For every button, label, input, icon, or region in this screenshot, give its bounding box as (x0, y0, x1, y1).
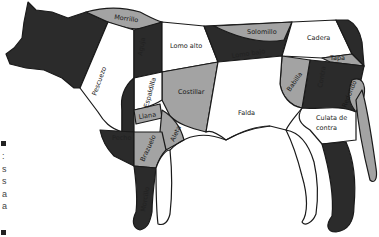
cow-illustration: Morrillo Pescuezo Aguja Lomo alto Solomi… (0, 0, 379, 237)
edge-char-3: s (2, 175, 7, 187)
label-solomillo: Solomillo (247, 28, 277, 36)
edge-char-1: : (2, 150, 5, 162)
label-lomo-alto: Lomo alto (170, 42, 202, 50)
edge-char-2: s (2, 163, 7, 175)
cow-cuts-diagram: Morrillo Pescuezo Aguja Lomo alto Solomi… (0, 0, 379, 237)
region-morcillo-trasero (322, 142, 355, 232)
edge-char-5: a (2, 200, 7, 212)
region-rabo-tail (356, 90, 377, 182)
label-cadera: Cadera (307, 34, 330, 42)
edge-char-4: a (2, 188, 7, 200)
front-leg-inner (156, 150, 172, 225)
edge-square-top (1, 141, 6, 146)
label-pecho: Pecho (112, 134, 131, 142)
edge-square-bottom (1, 230, 6, 235)
label-tapa: Tapa (329, 54, 345, 62)
rear-leg-inner (286, 130, 317, 224)
label-culata-line1: Culata de (316, 114, 347, 122)
label-culata-line2: contra (316, 124, 337, 132)
label-costillar: Costillar (178, 88, 205, 96)
label-falda: Falda (238, 109, 255, 117)
